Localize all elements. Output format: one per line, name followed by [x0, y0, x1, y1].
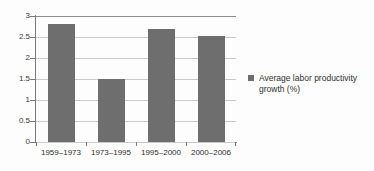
x-axis-tick-mark — [186, 142, 187, 146]
bar — [148, 29, 175, 142]
x-axis-tick-mark — [235, 142, 236, 146]
plot-area — [36, 16, 236, 142]
x-axis-tick-mark — [136, 142, 137, 146]
y-axis-tick-label: 1.5 — [2, 75, 30, 83]
y-axis-tick-labels: 00.511.522.53 — [0, 0, 30, 171]
chart-legend: Average labor productivity growth (%) — [248, 73, 368, 95]
x-axis-tick-mark — [36, 142, 37, 146]
bar — [198, 36, 225, 142]
x-axis-tick-mark — [86, 142, 87, 146]
gridline — [36, 16, 236, 17]
y-axis-tick-mark — [30, 121, 36, 122]
y-axis-tick-label: 0.5 — [2, 117, 30, 125]
y-axis-tick-mark — [30, 58, 36, 59]
y-axis-tick-label: 2 — [2, 54, 30, 62]
bar-chart-figure: 00.511.522.53 1959–19731973–19951995–200… — [0, 0, 374, 171]
legend-label: Average labor productivity growth (%) — [259, 73, 364, 95]
x-axis-tick-labels: 1959–19731973–19951995–20002000–2006 — [36, 148, 236, 160]
y-axis-tick-label: 1 — [2, 96, 30, 104]
x-axis-tick-label: 2000–2006 — [186, 148, 236, 158]
bar — [98, 79, 125, 142]
y-axis-tick-label: 3 — [2, 12, 30, 20]
x-axis-tick-label: 1973–1995 — [86, 148, 136, 158]
x-axis-tick-label: 1959–1973 — [36, 148, 86, 158]
y-axis-tick-mark — [30, 16, 36, 17]
y-axis-tick-mark — [30, 37, 36, 38]
legend-color-swatch — [248, 75, 254, 81]
x-axis-tick-label: 1995–2000 — [136, 148, 186, 158]
y-axis-tick-mark — [30, 79, 36, 80]
y-axis-tick-mark — [30, 142, 36, 143]
y-axis-tick-label: 0 — [2, 138, 30, 146]
x-axis-tick-marks — [36, 142, 236, 147]
bar — [48, 24, 75, 142]
y-axis-tick-label: 2.5 — [2, 33, 30, 41]
y-axis-tick-mark — [30, 100, 36, 101]
